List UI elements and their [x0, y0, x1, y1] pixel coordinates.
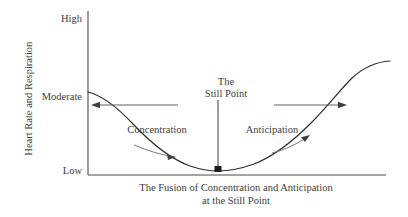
anticipation-label: Anticipation [228, 124, 316, 135]
still-point-label: TheStill Point [178, 76, 274, 100]
x-axis-caption-line2: at the Still Point [78, 195, 394, 208]
y-tick-label-high: High [30, 13, 82, 24]
right-span-arrowhead-icon [338, 102, 347, 108]
still-point-label-line2: Still Point [178, 88, 274, 100]
x-axis-caption: The Fusion of Concentration and Anticipa… [78, 182, 394, 207]
y-tick-label-low: Low [34, 165, 82, 176]
x-axis-caption-line1: The Fusion of Concentration and Anticipa… [78, 182, 394, 195]
concentration-flow-arrow-line [134, 145, 170, 156]
y-axis-title: Heart Rate and Respiration [23, 14, 34, 184]
still-point-label-line1: The [178, 76, 274, 88]
left-span-arrowhead-icon [91, 102, 100, 108]
figure-canvas: High Moderate Low Heart Rate and Respira… [0, 0, 408, 217]
concentration-label: Concentration [111, 124, 203, 135]
anticipation-flow-arrow-line [272, 139, 304, 153]
anticipation-flow-arrowhead-icon [301, 135, 310, 142]
still-point-marker [215, 166, 222, 172]
